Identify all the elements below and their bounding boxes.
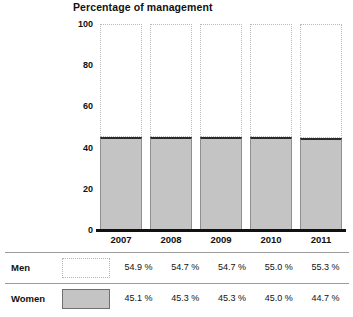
axis-baseline: [96, 229, 346, 232]
y-axis-tick-20: 20: [60, 184, 93, 194]
bar-column-2009: [200, 24, 242, 230]
table-cell-men-2009: 54.7 %: [209, 262, 256, 272]
table-cell-women-2011: 44.7 %: [302, 293, 349, 303]
y-axis-tick-40: 40: [60, 143, 93, 153]
x-axis-tick-2011: 2011: [296, 234, 346, 246]
bar-segment-men-2011: [300, 24, 342, 138]
bar-segment-men-2010: [250, 24, 292, 137]
bar-column-2007: [100, 24, 142, 230]
bar-segment-women-2010: [250, 137, 292, 230]
table-cell-women-2007: 45.1 %: [115, 293, 162, 303]
plot-bars: [96, 24, 346, 230]
x-axis: 20072008200920102011: [96, 234, 346, 248]
table-row: Men54.9 %54.7 %54.7 %55.0 %55.3 %: [5, 253, 349, 283]
y-axis-tick-100: 100: [60, 19, 93, 29]
bar-segment-men-2008: [150, 24, 192, 137]
bar-segment-women-2007: [100, 137, 142, 230]
table-cell-men-2007: 54.9 %: [115, 262, 162, 272]
table-cell-men-2008: 54.7 %: [162, 262, 209, 272]
x-axis-tick-2008: 2008: [146, 234, 196, 246]
legend-label-men: Men: [11, 262, 30, 273]
x-axis-tick-2010: 2010: [246, 234, 296, 246]
y-axis-tick-80: 80: [60, 60, 93, 70]
bar-column-2008: [150, 24, 192, 230]
table-cell-women-2009: 45.3 %: [209, 293, 256, 303]
chart-title: Percentage of management: [73, 1, 213, 13]
bar-segment-women-2011: [300, 138, 342, 230]
legend-label-women: Women: [11, 293, 45, 304]
table-cell-women-2008: 45.3 %: [162, 293, 209, 303]
table-cell-men-2010: 55.0 %: [255, 262, 302, 272]
bar-segment-women-2008: [150, 137, 192, 230]
stacked-bar-chart-figure: Percentage of management 020406080100 20…: [0, 0, 353, 317]
y-axis: 020406080100: [60, 18, 93, 237]
legend-data-table: Men54.9 %54.7 %54.7 %55.0 %55.3 %Women45…: [5, 252, 349, 314]
y-axis-tick-60: 60: [60, 101, 93, 111]
legend-swatch-women: [62, 289, 110, 309]
bar-segment-men-2007: [100, 24, 142, 137]
bar-column-2010: [250, 24, 292, 230]
y-axis-tick-0: 0: [60, 225, 93, 235]
table-cell-men-2011: 55.3 %: [302, 262, 349, 272]
x-axis-tick-2009: 2009: [196, 234, 246, 246]
x-axis-tick-2007: 2007: [96, 234, 146, 246]
table-row: Women45.1 %45.3 %45.3 %45.0 %44.7 %: [5, 284, 349, 314]
bar-segment-men-2009: [200, 24, 242, 137]
bar-segment-women-2009: [200, 137, 242, 230]
bar-column-2011: [300, 24, 342, 230]
table-cell-women-2010: 45.0 %: [255, 293, 302, 303]
legend-swatch-men: [62, 258, 110, 278]
